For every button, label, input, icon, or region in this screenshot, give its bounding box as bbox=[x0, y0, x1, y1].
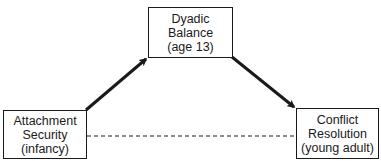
arrow-dyadic-to-conflict bbox=[232, 57, 294, 107]
node-attachment-security: Attachment Security (infancy) bbox=[3, 110, 87, 159]
path-diagram: Dyadic Balance (age 13) Attachment Secur… bbox=[0, 0, 381, 161]
arrow-attachment-to-dyadic bbox=[86, 59, 146, 110]
node-label-line: (age 13) bbox=[167, 40, 214, 54]
node-label-line: (young adult) bbox=[301, 141, 374, 155]
node-label-line: Security bbox=[22, 128, 67, 142]
node-label-line: Attachment bbox=[13, 114, 76, 128]
node-conflict-resolution: Conflict Resolution (young adult) bbox=[296, 108, 379, 159]
node-label-line: (infancy) bbox=[21, 142, 69, 156]
node-label-line: Resolution bbox=[308, 127, 367, 141]
node-label-line: Dyadic bbox=[171, 12, 209, 26]
node-dyadic-balance: Dyadic Balance (age 13) bbox=[148, 7, 233, 58]
node-label-line: Conflict bbox=[317, 113, 359, 127]
node-label-line: Balance bbox=[168, 26, 213, 40]
